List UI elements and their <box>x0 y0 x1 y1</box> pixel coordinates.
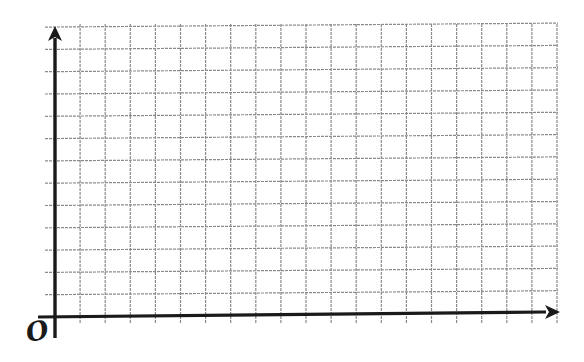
x-axis <box>38 312 546 317</box>
grid-line-horizontal <box>45 23 558 27</box>
grid-line-horizontal <box>45 202 558 206</box>
grid-canvas <box>0 0 584 362</box>
grid-line-horizontal <box>45 224 558 228</box>
grid-line-horizontal <box>45 246 558 250</box>
grid-lines <box>45 23 558 323</box>
grid-line-horizontal <box>45 112 558 116</box>
grid-line-horizontal <box>45 291 558 295</box>
grid-line-horizontal <box>45 68 558 72</box>
grid-line-horizontal <box>45 157 558 161</box>
grid-line-horizontal <box>45 135 558 139</box>
grid-line-horizontal <box>45 45 558 49</box>
origin-label: O <box>24 316 52 346</box>
grid-line-horizontal <box>45 90 558 94</box>
grid-line-horizontal <box>45 179 558 183</box>
grid-line-horizontal <box>45 268 558 272</box>
x-axis-arrow-icon <box>545 305 560 319</box>
